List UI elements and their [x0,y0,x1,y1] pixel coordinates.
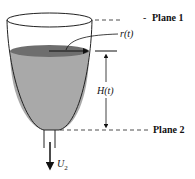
plane1-dash: - [143,12,146,23]
plane1-label: Plane 1 [152,12,183,23]
tank-diagram: U2 r(t) - Plane 1 H(t) Plane 2 [0,0,195,179]
velocity-label: U2 [57,158,68,172]
height-label: H(t) [96,85,114,97]
plane2-label: Plane 2 [153,124,184,135]
tank-rim [7,13,92,27]
radius-label: r(t) [120,28,134,40]
liquid-body [10,51,89,130]
